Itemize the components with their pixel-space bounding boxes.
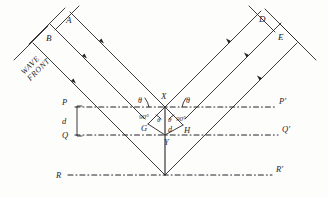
label-left-r: R (55, 170, 62, 180)
label-right-angle-right: 90° (176, 115, 186, 123)
spacing-bracket-d (77, 106, 82, 136)
label-theta-right-upper: θ (186, 96, 190, 105)
ray-diagram-svg: A B D E X Y G H P Q R P' Q' R' d d θ θ θ… (0, 0, 328, 197)
label-reflected-ray-d: D (258, 14, 266, 24)
segment-g-to-y (148, 124, 165, 135)
reflected-wavefront-lower (282, 26, 316, 60)
label-incident-ray-a: A (65, 15, 72, 25)
label-reflected-ray-e: E (277, 32, 284, 42)
label-spacing-d-left: d (62, 116, 67, 126)
label-incident-ray-b: B (46, 33, 52, 43)
incident-ray-a (70, 12, 165, 107)
angle-arc-theta-left-upper (145, 98, 149, 107)
wavefront-line-lower (14, 26, 48, 60)
wavefront-annotation: WAVE FRONT (18, 50, 51, 83)
label-spacing-d-center: d (168, 125, 173, 134)
label-left-q: Q (62, 130, 68, 140)
label-right-p-prime: P' (278, 96, 286, 106)
label-right-angle-left: 90° (139, 113, 149, 121)
label-theta-right-lower: θ (168, 116, 172, 124)
label-theta-left-lower: θ (157, 116, 161, 124)
reflected-ray-f (165, 43, 297, 175)
label-right-q-prime: Q' (282, 124, 290, 134)
label-left-p: P (61, 97, 67, 107)
label-vertex-y: Y (164, 137, 170, 147)
label-theta-left-upper: θ (138, 96, 142, 105)
figure-canvas: A B D E X Y G H P Q R P' Q' R' d d θ θ θ… (0, 0, 328, 197)
reflected-ray-d (165, 11, 261, 107)
label-foot-h: H (183, 125, 191, 135)
reflected-ray-e (185, 23, 281, 119)
label-foot-g: G (141, 123, 147, 133)
label-right-r-prime: R' (275, 164, 283, 174)
incident-ray-c (33, 43, 165, 175)
label-vertex-x: X (160, 91, 167, 101)
